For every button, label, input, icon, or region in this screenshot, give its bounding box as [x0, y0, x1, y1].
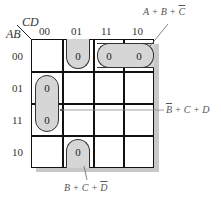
group-expression-right: B + C + D: [166, 104, 210, 115]
group-expression-bottom: B + C + D: [64, 182, 108, 193]
group-expression-top: A + B + C: [143, 6, 185, 17]
leader-lines: [0, 0, 221, 200]
